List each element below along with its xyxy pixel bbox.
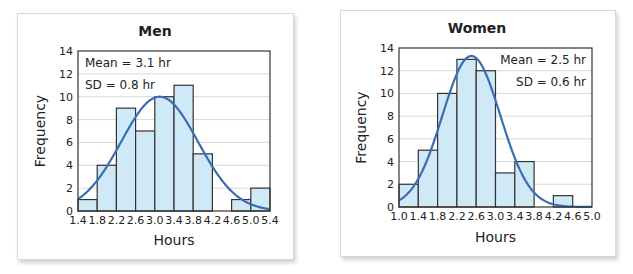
women-x-tick-label: 3.8 [525, 210, 543, 223]
women-histogram: 02468101214 1.01.41.82.22.63.03.43.84.24… [0, 0, 633, 274]
women-x-tick-label: 5.0 [583, 210, 601, 223]
women-y-tick-label: 2 [387, 178, 394, 191]
women-x-tick-label: 3.0 [487, 210, 505, 223]
women-x-tick-label: 4.2 [545, 210, 563, 223]
women-x-ticks: 1.01.41.82.22.63.03.43.84.24.65.0 [390, 210, 601, 223]
women-bar [399, 184, 418, 207]
women-y-ticks: 02468101214 [380, 42, 394, 214]
women-y-tick-label: 6 [387, 133, 394, 146]
women-y-tick-label: 4 [387, 156, 394, 169]
women-x-tick-label: 4.6 [564, 210, 582, 223]
women-x-tick-label: 1.4 [410, 210, 428, 223]
women-x-tick-label: 3.4 [506, 210, 524, 223]
women-bar [515, 162, 534, 207]
women-y-tick-label: 12 [380, 65, 394, 78]
women-x-axis-label: Hours [475, 229, 516, 245]
women-x-tick-label: 1.0 [390, 210, 408, 223]
women-y-tick-label: 8 [387, 110, 394, 123]
women-y-tick-label: 10 [380, 87, 394, 100]
women-x-tick-label: 2.6 [467, 210, 485, 223]
women-bar [438, 93, 457, 207]
women-bar [496, 173, 515, 207]
women-mean-annotation: Mean = 2.5 hr [500, 53, 586, 67]
women-bar [457, 59, 476, 207]
women-y-tick-label: 14 [380, 42, 394, 55]
women-y-axis-label: Frequency [353, 91, 369, 163]
women-chart-title: Women [448, 20, 507, 36]
women-sd-annotation: SD = 0.6 hr [516, 75, 586, 89]
women-x-tick-label: 2.2 [448, 210, 466, 223]
women-x-tick-label: 1.8 [429, 210, 447, 223]
